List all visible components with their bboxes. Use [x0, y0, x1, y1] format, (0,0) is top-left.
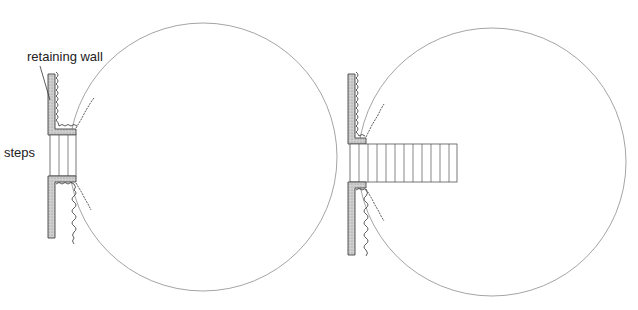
diagram-canvas: retaining wall steps [0, 0, 638, 310]
left-steps [50, 135, 76, 176]
left-lower-retaining-wall [48, 176, 91, 244]
right-lower-retaining-wall [348, 182, 384, 256]
retaining-wall-label: retaining wall [27, 49, 103, 64]
right-upper-retaining-wall [348, 72, 384, 144]
right-panel [348, 28, 626, 296]
right-steps [350, 144, 457, 182]
steps-label: steps [4, 145, 35, 160]
left-upper-retaining-wall [48, 72, 94, 135]
diagram-svg [0, 0, 638, 310]
left-planting-circle [69, 23, 337, 291]
